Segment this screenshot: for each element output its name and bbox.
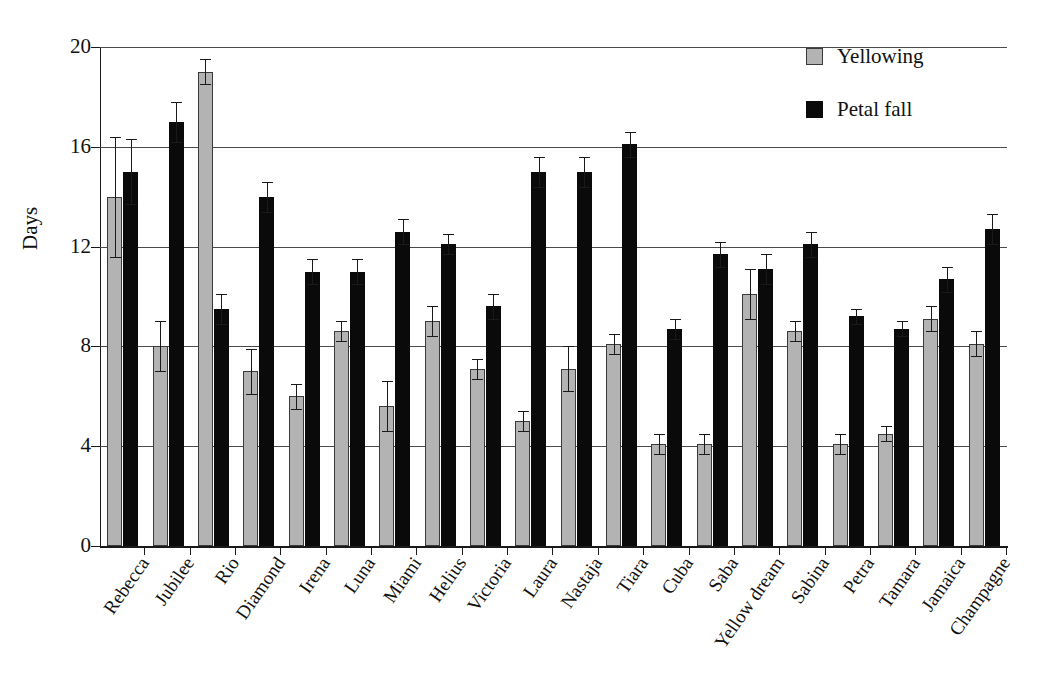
error-bar	[992, 214, 993, 244]
bar-group	[962, 47, 1007, 546]
error-cap-upper	[942, 267, 953, 268]
y-tick-label: 12	[70, 236, 91, 257]
legend-label: Petal fall	[837, 99, 912, 120]
error-cap-upper	[352, 259, 363, 260]
error-bar	[312, 259, 313, 284]
error-cap-upper	[472, 359, 483, 360]
error-cap-lower	[715, 267, 726, 268]
error-bar	[840, 434, 841, 454]
error-bar	[403, 219, 404, 244]
error-cap-lower	[216, 324, 227, 325]
error-cap-lower	[200, 84, 211, 85]
error-bar	[205, 59, 206, 84]
error-bar	[357, 259, 358, 284]
y-tick: 8	[55, 346, 91, 347]
error-cap-lower	[806, 257, 817, 258]
error-bar	[176, 102, 177, 142]
y-tick-mark	[91, 147, 100, 148]
error-bar	[115, 137, 116, 257]
error-cap-upper	[427, 306, 438, 307]
bar-group	[372, 47, 417, 546]
error-cap-upper	[926, 306, 937, 307]
y-tick: 16	[55, 147, 91, 148]
legend-label: Yellowing	[837, 46, 924, 67]
legend-swatch-yellowing	[806, 48, 823, 65]
error-cap-upper	[534, 157, 545, 158]
error-bar	[493, 294, 494, 319]
error-cap-upper	[200, 59, 211, 60]
error-bar	[267, 182, 268, 212]
bar-petal-fall	[894, 329, 909, 546]
error-bar	[704, 434, 705, 454]
y-tick: 0	[55, 546, 91, 547]
error-cap-lower	[443, 254, 454, 255]
error-cap-upper	[971, 331, 982, 332]
error-cap-lower	[488, 319, 499, 320]
error-bar	[630, 132, 631, 157]
error-cap-upper	[699, 434, 710, 435]
error-bar	[811, 232, 812, 257]
error-cap-lower	[110, 257, 121, 258]
error-cap-lower	[336, 341, 347, 342]
error-cap-upper	[761, 254, 772, 255]
error-cap-lower	[171, 142, 182, 143]
bar-yellowing	[334, 331, 349, 546]
error-bar	[931, 306, 932, 331]
error-cap-lower	[472, 379, 483, 380]
bar-petal-fall	[395, 232, 410, 546]
bar-group	[281, 47, 326, 546]
y-tick-label: 16	[70, 136, 91, 157]
y-tick-mark	[91, 446, 100, 447]
error-bar	[539, 157, 540, 187]
error-bar	[523, 411, 524, 431]
y-tick-mark	[91, 346, 100, 347]
error-cap-upper	[881, 426, 892, 427]
error-cap-upper	[216, 294, 227, 295]
error-bar	[584, 157, 585, 187]
y-tick-label: 4	[81, 435, 92, 456]
error-cap-upper	[398, 219, 409, 220]
error-cap-upper	[806, 232, 817, 233]
error-cap-lower	[835, 454, 846, 455]
y-tick-label: 8	[81, 335, 92, 356]
error-cap-lower	[897, 336, 908, 337]
error-cap-lower	[851, 324, 862, 325]
bar-petal-fall	[531, 172, 546, 546]
bar-petal-fall	[667, 329, 682, 546]
error-bar	[766, 254, 767, 284]
error-bar	[131, 139, 132, 204]
bar-yellowing	[742, 294, 757, 546]
y-tick-mark	[91, 47, 100, 48]
error-cap-upper	[488, 294, 499, 295]
error-cap-upper	[745, 269, 756, 270]
error-cap-lower	[609, 354, 620, 355]
error-cap-upper	[897, 321, 908, 322]
error-cap-lower	[382, 431, 393, 432]
bar-chart: Days 048121620 RebeccaJubileeRioDiamondI…	[0, 0, 1049, 687]
error-cap-upper	[382, 381, 393, 382]
error-bar	[614, 334, 615, 354]
error-bar	[432, 306, 433, 336]
error-bar	[795, 321, 796, 341]
error-cap-upper	[246, 349, 257, 350]
error-cap-lower	[155, 371, 166, 372]
y-tick: 12	[55, 247, 91, 248]
y-tick-mark	[91, 546, 100, 547]
error-cap-lower	[427, 336, 438, 337]
error-bar	[856, 309, 857, 324]
error-cap-lower	[534, 187, 545, 188]
bar-petal-fall	[486, 306, 501, 546]
bar-petal-fall	[214, 309, 229, 546]
bar-petal-fall	[169, 122, 184, 546]
bar-group	[599, 47, 644, 546]
error-bar	[568, 346, 569, 391]
error-cap-upper	[110, 137, 121, 138]
error-cap-lower	[926, 331, 937, 332]
bar-group	[644, 47, 689, 546]
error-bar	[448, 234, 449, 254]
error-cap-lower	[699, 454, 710, 455]
error-cap-upper	[126, 139, 137, 140]
error-cap-upper	[155, 321, 166, 322]
bar-petal-fall	[713, 254, 728, 546]
error-bar	[675, 319, 676, 339]
